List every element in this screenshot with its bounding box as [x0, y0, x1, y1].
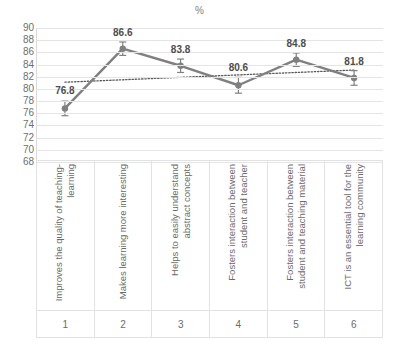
category-number-table: 123456: [36, 310, 383, 338]
data-point-marker[interactable]: [351, 75, 357, 81]
y-axis-tick-label: 82: [23, 72, 34, 82]
data-line: [65, 49, 354, 109]
line-series-svg: [36, 28, 383, 162]
y-axis-tick-label: 78: [23, 96, 34, 106]
data-point-marker[interactable]: [120, 46, 126, 52]
category-label: Improves the quality of teaching-learnin…: [53, 164, 77, 306]
y-axis-tick-label: 76: [23, 108, 34, 118]
data-label: 84.8: [287, 39, 306, 49]
data-point-marker[interactable]: [235, 82, 241, 88]
y-axis-tick-label: 84: [23, 60, 34, 70]
data-label: 83.8: [171, 45, 190, 55]
gridline: [36, 113, 383, 114]
category-label: ICT is an essential tool for the learnin…: [342, 164, 366, 306]
y-axis-tick-label: 80: [23, 84, 34, 94]
gridline: [36, 40, 383, 41]
category-cell: Improves the quality of teaching-learnin…: [37, 161, 95, 310]
y-axis-tick-label: 72: [23, 133, 34, 143]
gridline: [36, 138, 383, 139]
data-point-marker[interactable]: [62, 105, 68, 111]
category-label: Helps to easily understand abstract conc…: [169, 164, 193, 306]
gridline: [36, 52, 383, 53]
category-number: 3: [152, 311, 210, 337]
data-label: 86.6: [113, 28, 132, 38]
data-point-marker[interactable]: [177, 63, 183, 69]
category-number: 6: [325, 311, 382, 337]
chart-container: % 908886848280787674727068 76.886.683.88…: [0, 0, 399, 351]
category-number: 2: [95, 311, 153, 337]
gridline: [36, 150, 383, 151]
y-axis-tick-label: 86: [23, 47, 34, 57]
category-cell: Makes learning more interesting: [95, 161, 153, 310]
category-label: Fosters interaction between student and …: [226, 164, 250, 306]
y-axis-tick-label: 90: [23, 23, 34, 33]
category-number: 1: [37, 311, 95, 337]
category-cell: Fosters interaction between student and …: [210, 161, 268, 310]
gridline: [36, 65, 383, 66]
category-number: 4: [210, 311, 268, 337]
data-point-marker[interactable]: [293, 56, 299, 62]
y-axis-tick-label: 74: [23, 120, 34, 130]
category-label-table: Improves the quality of teaching-learnin…: [36, 160, 383, 310]
gridline: [36, 101, 383, 102]
y-axis-tick-label: 70: [23, 145, 34, 155]
category-cell: Fosters interaction between student and …: [268, 161, 326, 310]
gridline: [36, 89, 383, 90]
category-cell: ICT is an essential tool for the learnin…: [325, 161, 382, 310]
gridline: [36, 77, 383, 78]
gridline: [36, 125, 383, 126]
category-label: Makes learning more interesting: [117, 164, 129, 306]
category-number: 5: [268, 311, 326, 337]
y-axis-tick-label: 68: [23, 157, 34, 167]
data-label: 81.8: [344, 57, 363, 67]
category-cell: Helps to easily understand abstract conc…: [152, 161, 210, 310]
y-axis: 908886848280787674727068: [8, 28, 34, 162]
gridline: [36, 28, 383, 29]
y-axis-tick-label: 88: [23, 35, 34, 45]
plot-area: 76.886.683.880.684.881.8: [36, 28, 383, 162]
data-label: 76.8: [55, 86, 74, 96]
data-label: 80.6: [229, 63, 248, 73]
chart-title: %: [0, 5, 399, 16]
category-label: Fosters interaction between student and …: [284, 164, 308, 306]
